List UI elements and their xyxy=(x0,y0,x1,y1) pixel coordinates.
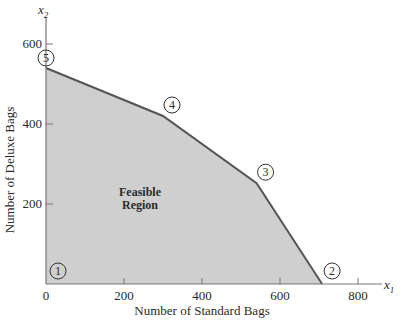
x-axis-title: Number of Standard Bags xyxy=(134,303,269,318)
y-tick-label: 600 xyxy=(23,36,43,51)
region-label-line1: Feasible xyxy=(119,185,162,199)
vertex-marker-2: 2 xyxy=(324,263,340,279)
x-tick-label: 800 xyxy=(348,288,368,303)
svg-text:5: 5 xyxy=(43,51,49,65)
svg-text:1: 1 xyxy=(55,264,61,278)
x-axis-variable: x1 xyxy=(383,277,394,295)
y-tick-label: 200 xyxy=(23,196,43,211)
x-tick-label: 0 xyxy=(43,288,50,303)
vertex-marker-5: 5 xyxy=(38,50,54,66)
x-tick-label: 200 xyxy=(114,288,134,303)
svg-text:4: 4 xyxy=(169,98,175,112)
x-tick-label: 600 xyxy=(270,288,290,303)
x-tick-label: 400 xyxy=(192,288,212,303)
y-tick-label: 400 xyxy=(23,116,43,131)
vertex-marker-4: 4 xyxy=(164,97,180,113)
y-axis-title: Number of Deluxe Bags xyxy=(2,107,17,234)
svg-text:2: 2 xyxy=(329,264,335,278)
feasible-region xyxy=(46,68,322,284)
y-axis-variable: x2 xyxy=(37,2,49,20)
region-label-line2: Region xyxy=(122,198,158,212)
vertex-marker-3: 3 xyxy=(258,164,274,180)
feasible-region-chart: 0200400600800 200400600 x1 x2 Number of … xyxy=(0,0,408,321)
svg-text:3: 3 xyxy=(263,165,269,179)
